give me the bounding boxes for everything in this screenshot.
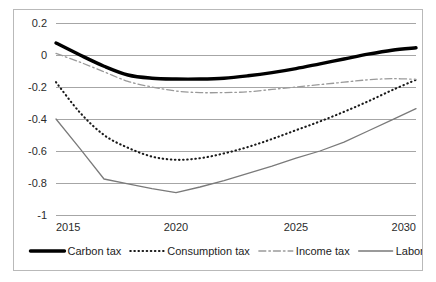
y-tick-label: 0 <box>41 49 47 61</box>
x-tick-label: 2030 <box>392 221 416 233</box>
x-tick-label: 2015 <box>56 221 80 233</box>
y-tick-label: -1 <box>37 209 47 221</box>
y-tick-label: 0.2 <box>32 17 47 29</box>
legend-label: Carbon tax <box>67 245 121 257</box>
series-line-carbon-tax <box>56 43 416 79</box>
x-tick-label: 2025 <box>284 221 308 233</box>
legend-label: Labor tax <box>396 245 422 257</box>
series-line-income-tax <box>56 53 416 92</box>
legend-item-labor-tax[interactable]: Labor tax <box>359 245 422 257</box>
gridlines-group <box>56 24 416 216</box>
y-tick-label: -0.2 <box>28 81 47 93</box>
y-tick-label: -0.4 <box>28 113 47 125</box>
chart-container: 0.20-0.2-0.4-0.6-0.8-1 2015202020252030 … <box>13 9 423 271</box>
y-axis-tick-labels: 0.20-0.2-0.4-0.6-0.8-1 <box>28 17 47 221</box>
y-tick-label: -0.8 <box>28 177 47 189</box>
legend-item-income-tax[interactable]: Income tax <box>259 245 350 257</box>
legend-item-consumption-tax[interactable]: Consumption tax <box>130 245 250 257</box>
chart-legend: Carbon taxConsumption taxIncome taxLabor… <box>30 245 422 257</box>
line-chart: 0.20-0.2-0.4-0.6-0.8-1 2015202020252030 … <box>14 10 422 270</box>
data-series-group <box>56 43 416 193</box>
legend-label: Consumption tax <box>167 245 250 257</box>
x-axis-tick-labels: 2015202020252030 <box>56 221 416 233</box>
legend-item-carbon-tax[interactable]: Carbon tax <box>30 245 121 257</box>
y-tick-label: -0.6 <box>28 145 47 157</box>
legend-label: Income tax <box>296 245 350 257</box>
x-tick-label: 2020 <box>164 221 188 233</box>
